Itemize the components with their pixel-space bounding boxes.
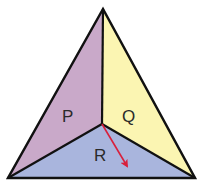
label-r: R xyxy=(94,146,106,165)
triangle-diagram: P Q R xyxy=(0,0,201,181)
inner-edge-apex xyxy=(102,9,103,124)
label-p: P xyxy=(62,107,73,126)
label-q: Q xyxy=(122,107,135,126)
